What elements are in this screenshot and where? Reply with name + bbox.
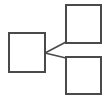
diagram-canvas xyxy=(0,0,107,98)
source-node[interactable] xyxy=(9,33,45,72)
connector-to-top-line xyxy=(45,42,66,53)
target-node-top[interactable] xyxy=(66,5,101,43)
diagram-svg-root xyxy=(0,0,107,98)
connector-group xyxy=(45,42,66,58)
target-node-bottom[interactable] xyxy=(66,57,101,94)
connector-to-bottom-line xyxy=(45,53,66,58)
node-group xyxy=(9,5,101,94)
